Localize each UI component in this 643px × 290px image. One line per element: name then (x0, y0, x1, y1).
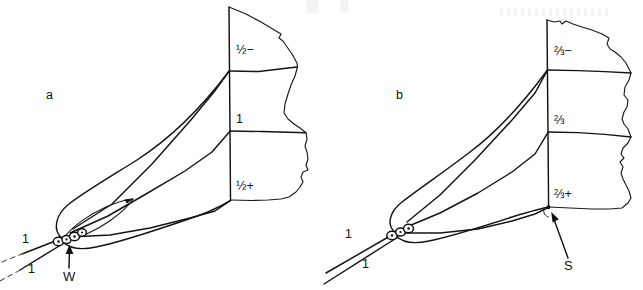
b-node-dot-1 (391, 234, 394, 237)
a-callout-arrowhead-w (66, 245, 74, 255)
b-outer-dislocation-curve (390, 70, 547, 233)
b-corner-node-dot (546, 205, 550, 209)
b-front-vertical-edge (547, 20, 549, 207)
a-node-dot-2 (65, 238, 67, 240)
b-lower-long-edge (404, 207, 549, 233)
callout-label-w: W (63, 270, 75, 283)
b-upper-band-edge (547, 70, 631, 73)
line-label-a-lower: 1 (28, 263, 35, 276)
line-label-a-upper: 1 (22, 233, 29, 246)
a-middle-band-edge (230, 131, 306, 133)
b-node-dot-3 (407, 227, 410, 230)
a-node-dot-1 (57, 240, 60, 243)
face-label-b-top: ⅔− (554, 45, 572, 58)
face-label-b-middle: ⅔ (554, 114, 564, 127)
a-middle-long-edge (70, 131, 230, 233)
face-label-a-middle: 1 (236, 113, 243, 126)
a-node-dot-4 (81, 231, 83, 233)
callout-label-s: S (564, 259, 573, 272)
panel-label-b: b (396, 89, 403, 102)
diagram-canvas (0, 0, 643, 290)
line-label-b-lower: 1 (362, 258, 369, 271)
b-callout-arrowhead-s (551, 212, 559, 223)
panel-label-a: a (46, 89, 53, 102)
figure-root: a b ½− 1 ½+ 1 1 W ⅔− ⅔ ⅔+ 1 1 S (0, 0, 643, 290)
a-incoming-line-lower (20, 243, 64, 270)
b-node-dot-2 (399, 231, 401, 233)
panel-b-group (324, 20, 631, 284)
panel-a-group (0, 7, 308, 281)
a-upper-band-edge (229, 67, 297, 72)
b-middle-band-edge (548, 132, 631, 137)
a-incoming-line-lower-dashed (0, 269, 22, 281)
a-incoming-line-upper-dashed (2, 253, 24, 262)
face-label-b-bottom: ⅔+ (554, 188, 572, 201)
line-label-b-upper: 1 (345, 228, 352, 241)
b-callout-arrow-shaft-s (554, 218, 569, 258)
face-label-a-top: ½− (236, 44, 254, 57)
b-corner-hook (544, 209, 549, 217)
face-label-a-bottom: ½+ (236, 180, 254, 193)
b-incoming-line-lower (324, 237, 398, 284)
a-node-dot-3 (73, 235, 76, 238)
a-ragged-right-edge (229, 7, 308, 201)
a-front-vertical-edge (229, 7, 231, 200)
